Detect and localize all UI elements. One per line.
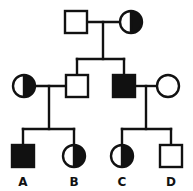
pedigree-diagram: ABCD (0, 0, 193, 191)
individual-label-a: A (18, 175, 28, 189)
individual-I-2 (120, 11, 142, 33)
individual-label-b: B (69, 175, 78, 189)
individual-III-3 (111, 145, 133, 167)
square-affected-III-1 (12, 145, 34, 167)
individual-label-d: D (166, 175, 176, 189)
individual-label-c: C (118, 175, 127, 189)
individual-III-1 (12, 145, 34, 167)
pedigree-chart: ABCD (0, 0, 193, 191)
individual-I-1 (65, 11, 87, 33)
square-affected-II-3 (113, 75, 135, 97)
individual-III-4 (160, 145, 182, 167)
individual-II-1 (13, 75, 35, 97)
square-unaffected-II-2 (66, 75, 88, 97)
square-unaffected-III-4 (160, 145, 182, 167)
square-unaffected-I-1 (65, 11, 87, 33)
individual-II-2 (66, 75, 88, 97)
individual-II-3 (113, 75, 135, 97)
circle-unaffected-II-4 (157, 75, 179, 97)
individual-II-4 (157, 75, 179, 97)
individual-III-2 (63, 145, 85, 167)
